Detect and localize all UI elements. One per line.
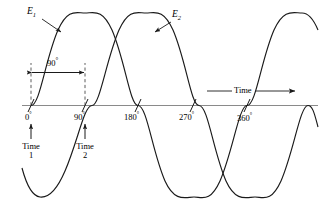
waveform-canvas [0,0,332,215]
tick-label-180deg-value: 180 [124,112,137,122]
tick-label-90deg-value: 90 [74,112,83,122]
tick-label-270deg-unit: ° [192,111,194,117]
curve-label-e1-subscript: 1 [33,11,36,18]
tick-label-90deg-unit: ° [83,111,85,117]
tick-label-360deg-value: 360 [237,113,250,123]
e1-leader-line [42,19,61,32]
tick-label-270deg-value: 270 [179,112,192,122]
tick-label-360deg-unit: ° [250,112,252,118]
curve-label-e2: E2 [172,10,181,22]
waveform-figure: E1 E2 90° Time 0° 90° 180° 270° 360° Tim… [0,0,332,215]
tick-label-0deg-unit: ° [29,111,31,117]
tick-label-0deg: 0° [25,111,32,122]
tick-label-360deg: 360° [237,112,252,123]
e2-leader-line [155,22,171,32]
time-marker-1-label: Time 1 [13,142,49,160]
curve-label-e1: E1 [27,7,36,19]
time-marker-1-line2: 1 [13,151,49,160]
curve-label-e2-subscript: 2 [178,14,181,21]
time-marker-2-label: Time 2 [67,142,103,160]
dimension-label-unit: ° [56,56,59,64]
dimension-label-90deg: 90° [47,57,58,68]
tick-label-180deg: 180° [124,111,139,122]
tick-label-270deg: 270° [179,111,194,122]
time-marker-2-line2: 2 [67,151,103,160]
tick-label-180deg-unit: ° [137,111,139,117]
time-axis-label: Time [234,86,252,95]
tick-label-90deg: 90° [74,111,85,122]
dimension-label-value: 90 [47,58,56,68]
